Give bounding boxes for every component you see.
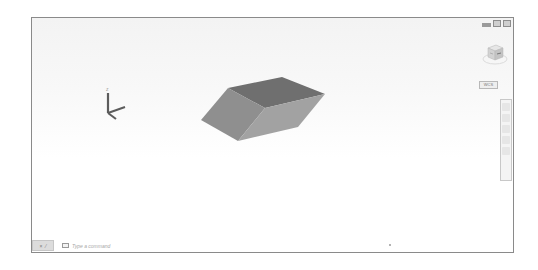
3d-solid-model[interactable] (0, 0, 538, 270)
close-command-line-button[interactable]: × (40, 243, 43, 249)
command-line-controls: × ⁄ (32, 240, 54, 251)
command-prompt-icon[interactable] (62, 243, 69, 248)
command-line: × ⁄ (32, 240, 152, 251)
command-input[interactable] (72, 243, 142, 249)
customize-command-line-button[interactable]: ⁄ (46, 243, 47, 249)
